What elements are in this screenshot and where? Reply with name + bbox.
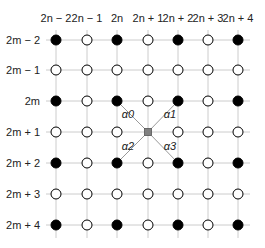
col-label: 2n − 1: [72, 12, 103, 24]
open-point: [173, 65, 183, 75]
filled-point: [51, 35, 61, 45]
filled-point: [51, 158, 61, 168]
alpha-label: α1: [164, 108, 176, 120]
open-point: [143, 96, 153, 106]
filled-point: [51, 96, 61, 106]
row-label: 2m − 1: [6, 64, 40, 76]
filled-point: [173, 220, 183, 230]
open-point: [82, 65, 92, 75]
open-point: [173, 127, 183, 137]
col-label: 2n + 4: [223, 12, 254, 24]
open-point: [51, 127, 61, 137]
open-point: [82, 220, 92, 230]
open-point: [112, 65, 122, 75]
lattice-diagram: 2n − 22n − 12n2n + 12n + 22n + 32n + 42m…: [0, 0, 265, 248]
row-label: 2m + 2: [6, 157, 40, 169]
open-point: [203, 65, 213, 75]
alpha-label: α0: [122, 108, 135, 120]
alpha-label: α3: [164, 140, 177, 152]
row-label: 2m: [25, 95, 40, 107]
filled-point: [233, 158, 243, 168]
open-point: [82, 189, 92, 199]
filled-point: [233, 35, 243, 45]
row-label: 2m + 1: [6, 126, 40, 138]
center-point: [145, 129, 152, 136]
open-point: [203, 220, 213, 230]
open-point: [143, 189, 153, 199]
open-point: [82, 35, 92, 45]
filled-point: [51, 220, 61, 230]
filled-point: [233, 220, 243, 230]
filled-point: [112, 220, 122, 230]
row-label: 2m + 4: [6, 219, 40, 231]
filled-point: [173, 96, 183, 106]
open-point: [143, 65, 153, 75]
open-point: [112, 127, 122, 137]
open-point: [82, 158, 92, 168]
filled-point: [112, 96, 122, 106]
open-point: [143, 158, 153, 168]
open-point: [143, 35, 153, 45]
open-point: [112, 189, 122, 199]
col-label: 2n + 1: [133, 12, 164, 24]
col-label: 2n − 2: [41, 12, 72, 24]
open-point: [82, 96, 92, 106]
open-point: [143, 220, 153, 230]
open-point: [82, 127, 92, 137]
filled-point: [233, 96, 243, 106]
open-point: [233, 65, 243, 75]
col-label: 2n + 3: [193, 12, 224, 24]
col-label: 2n: [111, 12, 123, 24]
row-label: 2m − 2: [6, 34, 40, 46]
filled-point: [112, 35, 122, 45]
axis-labels: 2n − 22n − 12n2n + 12n + 22n + 32n + 42m…: [6, 12, 253, 231]
open-point: [203, 127, 213, 137]
open-point: [203, 158, 213, 168]
filled-point: [112, 158, 122, 168]
open-point: [173, 189, 183, 199]
open-point: [203, 35, 213, 45]
open-point: [203, 189, 213, 199]
open-point: [233, 189, 243, 199]
filled-point: [173, 158, 183, 168]
open-point: [51, 189, 61, 199]
open-point: [51, 65, 61, 75]
filled-point: [173, 35, 183, 45]
alpha-label: α2: [122, 140, 134, 152]
col-label: 2n + 2: [163, 12, 194, 24]
row-label: 2m + 3: [6, 188, 40, 200]
open-point: [203, 96, 213, 106]
open-point: [233, 127, 243, 137]
